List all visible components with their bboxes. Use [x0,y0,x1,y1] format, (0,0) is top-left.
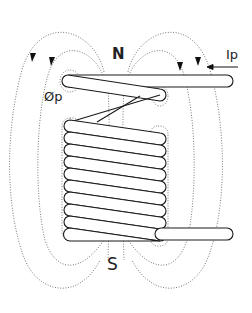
south-pole-label: S [107,256,118,273]
coil-connector [70,95,160,122]
bottom-lead-wire [155,228,233,240]
solenoid-diagram: N S Øp Ip [0,0,252,313]
flux-label: Øp [44,90,62,103]
current-arrow [207,65,238,70]
current-label: Ip [226,48,238,61]
arrow-head-icon [195,57,201,66]
arrow-head-icon [30,53,36,62]
coil-connector [97,96,140,122]
north-pole-label: N [112,47,125,62]
solenoid-svg [0,0,252,313]
coil [62,75,233,241]
arrow-left-icon [207,65,213,70]
coil-stack [64,120,166,241]
